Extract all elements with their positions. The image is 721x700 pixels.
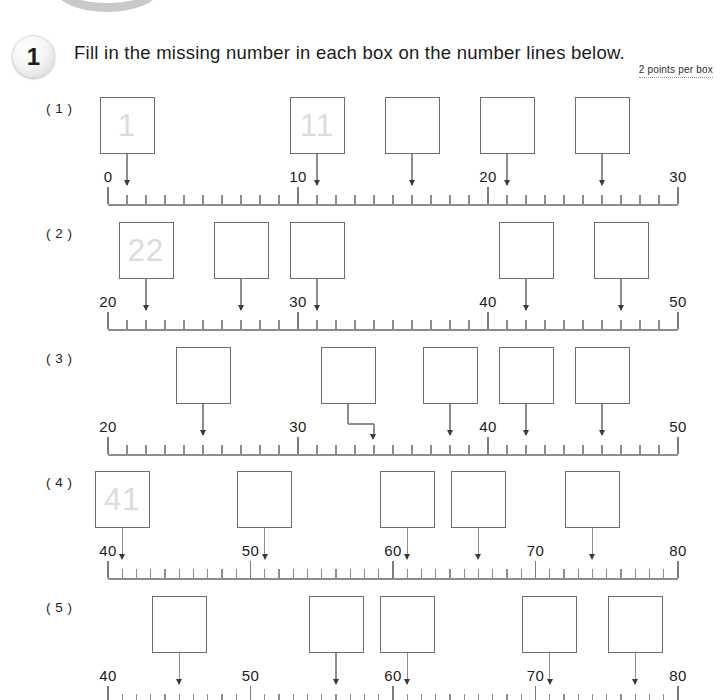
answer-box[interactable] [152,596,207,653]
answer-box[interactable] [176,347,231,404]
answer-box[interactable] [565,471,620,528]
axis-tick-minor [221,320,222,329]
answer-box[interactable] [214,222,269,279]
axis-tick-minor [392,320,393,329]
axis-tick-minor [635,569,636,578]
axis-tick-minor [150,569,151,578]
axis-tick-minor [544,320,545,329]
axis-tick-minor [179,694,180,700]
pointer-arrow [335,653,336,684]
axis-tick-minor [122,694,123,700]
axis-tick-minor [183,445,184,454]
axis-tick-minor [221,445,222,454]
axis-tick-minor [606,694,607,700]
axis-tick-minor [606,569,607,578]
axis-tick-minor [307,694,308,700]
axis-tick-minor [202,195,203,204]
axis-tick-minor [316,195,317,204]
axis-tick-minor [145,445,146,454]
axis-tick-major [677,686,678,700]
axis-tick-minor [136,569,137,578]
axis-tick-major [107,187,108,204]
answer-box[interactable] [309,596,364,653]
axis-tick-minor [259,320,260,329]
axis-tick-major [677,187,678,204]
axis-tick-label: 40 [479,418,497,435]
answer-box[interactable] [594,222,649,279]
answer-box[interactable] [522,596,577,653]
answer-box[interactable] [480,97,535,154]
axis-tick-minor [544,445,545,454]
points-per-box-note: 2 points per box [639,64,713,78]
axis-tick-minor [373,445,374,454]
answer-box[interactable] [380,596,435,653]
axis-tick-minor [316,320,317,329]
ghost-answer-number: 11 [300,110,334,141]
answer-box[interactable] [237,471,292,528]
axis-tick-minor [293,694,294,700]
axis-tick-minor [592,569,593,578]
axis-tick-minor [620,569,621,578]
axis-tick-major [250,561,251,578]
pointer-arrow [411,154,412,185]
axis-tick-minor [240,445,241,454]
axis-tick-minor [335,569,336,578]
axis-tick-major [107,686,108,700]
axis-tick-label: 50 [669,293,687,310]
axis-tick-minor [582,445,583,454]
answer-box[interactable] [321,347,376,404]
answer-box[interactable] [499,347,554,404]
answer-box[interactable] [385,97,440,154]
pointer-arrow [478,528,479,559]
axis-tick-minor [521,569,522,578]
axis-tick-minor [350,569,351,578]
axis-tick-minor [392,195,393,204]
axis-tick-minor [193,569,194,578]
answer-box[interactable]: 11 [290,97,345,154]
axis-tick-minor [468,320,469,329]
axis-tick-minor [430,445,431,454]
number-line-axis [108,454,678,456]
answer-box[interactable]: 22 [119,222,174,279]
axis-tick-label: 10 [289,168,307,185]
axis-tick-minor [620,694,621,700]
axis-tick-minor [164,569,165,578]
pointer-arrow [635,653,636,684]
axis-tick-major [107,437,108,454]
axis-tick-minor [563,195,564,204]
axis-tick-minor [354,445,355,454]
axis-tick-minor [658,195,659,204]
axis-tick-minor [549,694,550,700]
answer-box[interactable] [423,347,478,404]
axis-tick-major [250,686,251,700]
pointer-arrow [179,653,180,684]
answer-box[interactable] [575,347,630,404]
answer-box[interactable] [290,222,345,279]
axis-tick-label: 20 [99,293,117,310]
axis-tick-minor [373,195,374,204]
answer-box[interactable] [380,471,435,528]
axis-tick-minor [525,195,526,204]
answer-box[interactable]: 1 [100,97,155,154]
answer-box[interactable] [575,97,630,154]
answer-box[interactable]: 41 [95,471,150,528]
axis-tick-label: 30 [669,168,687,185]
instruction-text: Fill in the missing number in each box o… [74,42,625,64]
answer-box[interactable] [499,222,554,279]
axis-tick-minor [421,569,422,578]
axis-tick-minor [601,320,602,329]
pointer-arrow [145,279,146,310]
answer-box[interactable] [451,471,506,528]
decorative-oval [55,0,159,12]
row-label: ( 2 ) [46,226,73,241]
pointer-arrow [525,279,526,310]
axis-tick-minor [221,569,222,578]
axis-tick-label: 30 [289,418,307,435]
axis-tick-minor [364,694,365,700]
axis-tick-minor [278,445,279,454]
axis-tick-minor [122,569,123,578]
axis-tick-minor [164,195,165,204]
axis-tick-minor [364,569,365,578]
pointer-arrow [122,528,123,559]
answer-box[interactable] [608,596,663,653]
